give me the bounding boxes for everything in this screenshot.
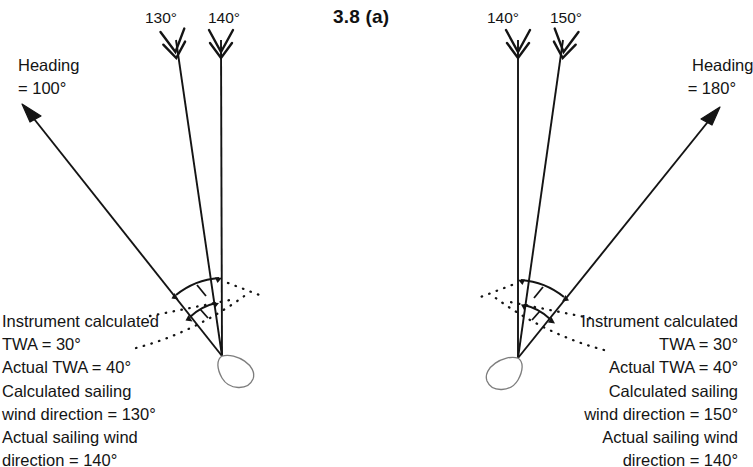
left-annotation-block: Instrument calculated TWA = 30° Actual T… xyxy=(2,310,232,467)
left-annotation-line-2: TWA = 30° xyxy=(2,333,232,356)
left-heading-label-line2: = 100° xyxy=(18,77,66,100)
right-annotation-line-6: Actual sailing wind xyxy=(500,426,738,449)
left-wind-label-actual: 140° xyxy=(208,9,240,27)
right-annotation-line-4: Calculated sailing xyxy=(500,380,738,403)
right-actual-wind-arrow xyxy=(506,30,530,358)
right-leader-dots-cluster xyxy=(478,285,512,298)
right-wind-label-calculated: 150° xyxy=(550,9,582,27)
figure-title: 3.8 (a) xyxy=(333,6,389,28)
right-heading-label-line1: Heading xyxy=(692,54,736,77)
left-annotation-line-5: wind direction = 130° xyxy=(2,403,232,426)
right-annotation-line-5: wind direction = 150° xyxy=(500,403,738,426)
left-actual-wind-arrow xyxy=(209,30,233,356)
right-annotation-line-1: Instrument calculated xyxy=(500,310,738,333)
left-wind-label-calculated: 130° xyxy=(145,9,177,27)
left-annotation-line-1: Instrument calculated xyxy=(2,310,232,333)
left-leader-dots-cluster xyxy=(228,283,262,296)
right-annotation-line-7: direction = 140° xyxy=(500,449,738,467)
right-wind-label-actual: 140° xyxy=(487,9,519,27)
left-annotation-line-7: direction = 140° xyxy=(2,449,232,467)
left-heading-label-line1: Heading xyxy=(18,54,79,77)
right-annotation-block: Instrument calculated TWA = 30° Actual T… xyxy=(500,310,738,467)
right-calculated-wind-arrow xyxy=(518,29,579,358)
left-calculated-wind-arrow xyxy=(160,29,222,356)
left-annotation-line-6: Actual sailing wind xyxy=(2,426,232,449)
left-annotation-line-4: Calculated sailing xyxy=(2,380,232,403)
left-actual-twa-arc xyxy=(172,278,223,300)
left-annotation-line-3: Actual TWA = 40° xyxy=(2,356,232,379)
right-heading-label-line2: = 180° xyxy=(686,77,736,100)
right-annotation-line-2: TWA = 30° xyxy=(500,333,738,356)
right-annotation-line-3: Actual TWA = 40° xyxy=(500,356,738,379)
